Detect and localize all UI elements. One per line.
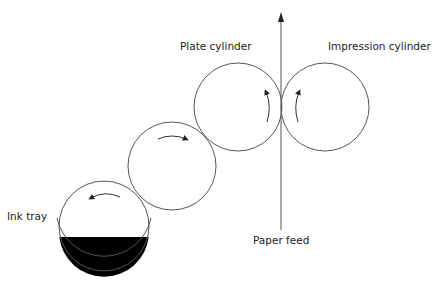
paper-feed-arrow-icon — [278, 12, 284, 22]
rotation-arrow-icon — [266, 92, 269, 122]
label-plate-cylinder: Plate cylinder — [180, 40, 252, 52]
impression-cylinder — [281, 63, 369, 151]
label-ink-tray: Ink tray — [7, 210, 47, 222]
label-impression-cylinder: Impression cylinder — [328, 40, 431, 52]
rotation-arrow-icon — [158, 136, 186, 139]
transfer-roller — [128, 122, 216, 210]
ink-tray — [57, 218, 151, 277]
rotation-arrow-icon — [296, 92, 299, 122]
rotation-arrow-icon — [91, 194, 120, 198]
label-paper-feed: Paper feed — [253, 234, 309, 246]
